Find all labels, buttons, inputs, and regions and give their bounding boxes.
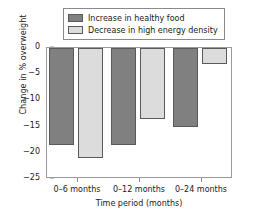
legend-item-label: Increase in healthy food (88, 14, 185, 23)
y-tick-label: 0 (35, 43, 40, 51)
legend-item: Decrease in high energy density (68, 24, 218, 36)
bar (202, 48, 227, 64)
chart-legend: Increase in healthy foodDecrease in high… (63, 8, 225, 40)
y-tick-label: −25 (23, 174, 40, 182)
y-tick-label: −5 (28, 69, 40, 77)
bar-chart: Change in % overweight 0−5−10−15−20−25 0… (0, 0, 255, 220)
bar (173, 48, 198, 127)
y-tick-label: −10 (23, 95, 40, 103)
x-tick-label: 0–12 months (113, 185, 165, 194)
bar (111, 48, 136, 145)
plot-area (46, 47, 232, 178)
bar (78, 48, 103, 158)
x-axis-title: Time period (months) (46, 199, 232, 208)
y-axis-tick-labels: 0−5−10−15−20−25 (8, 47, 40, 178)
bar (49, 48, 74, 145)
bar (140, 48, 165, 119)
y-tick-label: −20 (23, 148, 40, 156)
x-tick-mark (139, 178, 140, 182)
x-tick-mark (201, 178, 202, 182)
x-tick-mark (77, 178, 78, 182)
legend-swatch-icon (68, 14, 83, 22)
legend-item: Increase in healthy food (68, 12, 218, 24)
bars-layer (47, 48, 231, 177)
x-tick-label: 0–24 months (175, 185, 227, 194)
legend-item-label: Decrease in high energy density (88, 26, 218, 35)
legend-swatch-icon (68, 26, 83, 34)
x-tick-label: 0–6 months (54, 185, 101, 194)
y-tick-label: −15 (23, 122, 40, 130)
